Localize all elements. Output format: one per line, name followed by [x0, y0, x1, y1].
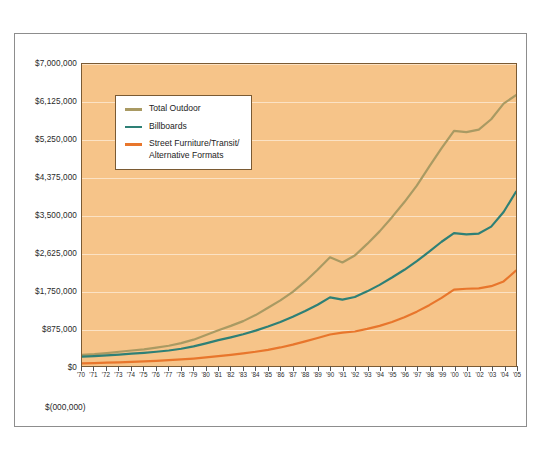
plot-wrapper: Total OutdoorBillboardsStreet Furniture/… — [81, 63, 517, 367]
x-axis-tick-label: '05 — [513, 371, 521, 378]
x-axis-tick-label: '74 — [127, 371, 135, 378]
x-axis-tick-label: '85 — [264, 371, 272, 378]
x-axis-tick-label: '71 — [89, 371, 97, 378]
x-axis-tick-label: '96 — [401, 371, 409, 378]
x-axis-tick-label: '88 — [301, 371, 309, 378]
legend-swatch-icon — [125, 108, 142, 111]
x-axis-tick-label: '76 — [152, 371, 160, 378]
x-axis-tick-label: '75 — [139, 371, 147, 378]
x-axis-tick-label: '03 — [488, 371, 496, 378]
x-axis: '70'71'72'73'74'75'76'77'78'79'80'81'82'… — [81, 371, 517, 387]
x-axis-tick-label: '95 — [388, 371, 396, 378]
x-axis-tick-label: '92 — [351, 371, 359, 378]
x-axis-tick-label: '77 — [164, 371, 172, 378]
y-axis-tick-label: $875,000 — [42, 325, 77, 334]
x-axis-tick-label: '80 — [201, 371, 209, 378]
x-axis-tick-label: '91 — [338, 371, 346, 378]
y-axis: $0$875,000$1,750,000$2,625,000$3,500,000… — [15, 63, 77, 367]
x-axis-tick-label: '84 — [251, 371, 259, 378]
x-axis-tick-label: '99 — [438, 371, 446, 378]
x-axis-tick-label: '70 — [77, 371, 85, 378]
x-axis-tick-label: '97 — [413, 371, 421, 378]
x-axis-tick-label: '01 — [463, 371, 471, 378]
x-axis-tick-label: '73 — [114, 371, 122, 378]
series-line — [82, 192, 516, 357]
legend-swatch-icon — [125, 143, 142, 146]
legend-item: Street Furniture/Transit/Alternative For… — [125, 138, 239, 161]
x-axis-tick-label: '00 — [451, 371, 459, 378]
units-caption: $(000,000) — [45, 402, 86, 412]
x-axis-tick-label: '94 — [376, 371, 384, 378]
x-axis-tick-label: '81 — [214, 371, 222, 378]
y-axis-tick-label: $2,625,000 — [35, 249, 77, 258]
y-axis-tick-label: $3,500,000 — [35, 211, 77, 220]
x-axis-tick-label: '93 — [363, 371, 371, 378]
x-axis-tick-label: '89 — [314, 371, 322, 378]
y-axis-tick-label: $0 — [68, 363, 77, 372]
x-axis-tick-label: '72 — [102, 371, 110, 378]
x-axis-tick-label: '87 — [289, 371, 297, 378]
legend-item-label: Total Outdoor — [149, 103, 201, 115]
y-axis-tick-label: $6,125,000 — [35, 97, 77, 106]
x-axis-tick-label: '83 — [239, 371, 247, 378]
x-axis-tick-label: '90 — [326, 371, 334, 378]
y-axis-tick-label: $4,375,000 — [35, 173, 77, 182]
legend-item-label: Billboards — [149, 121, 187, 133]
chart-figure: $0$875,000$1,750,000$2,625,000$3,500,000… — [14, 33, 527, 427]
chart-legend: Total OutdoorBillboardsStreet Furniture/… — [115, 95, 252, 170]
x-axis-tick-label: '82 — [226, 371, 234, 378]
legend-item-label: Street Furniture/Transit/Alternative For… — [149, 138, 239, 161]
x-axis-tick-label: '04 — [500, 371, 508, 378]
x-axis-tick-label: '86 — [276, 371, 284, 378]
legend-item: Billboards — [125, 121, 239, 133]
legend-swatch-icon — [125, 126, 142, 129]
y-axis-tick-label: $1,750,000 — [35, 287, 77, 296]
x-axis-tick-label: '78 — [177, 371, 185, 378]
x-axis-tick-label: '98 — [426, 371, 434, 378]
x-axis-tick-label: '79 — [189, 371, 197, 378]
y-axis-tick-label: $7,000,000 — [35, 59, 77, 68]
y-axis-tick-label: $5,250,000 — [35, 135, 77, 144]
x-axis-tick-label: '02 — [476, 371, 484, 378]
legend-item: Total Outdoor — [125, 103, 239, 115]
